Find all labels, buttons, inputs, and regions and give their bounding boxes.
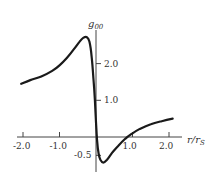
x-tick-label: 2.0 (159, 141, 174, 151)
y-tick-label: 2.0 (104, 59, 119, 69)
y-axis-label: g00 (88, 18, 104, 31)
axes (17, 30, 182, 172)
x-tick-label: -1.0 (50, 141, 68, 151)
chart: -2.0-1.01.02.02.01.0-0.5 g00 r/rS (0, 0, 217, 183)
x-tick-label: -2.0 (13, 141, 31, 151)
x-tick-label: 1.0 (123, 141, 138, 151)
x-axis-label: r/rS (187, 134, 205, 147)
y-tick-label: 1.0 (104, 95, 119, 105)
y-tick-label: -0.5 (74, 150, 92, 160)
